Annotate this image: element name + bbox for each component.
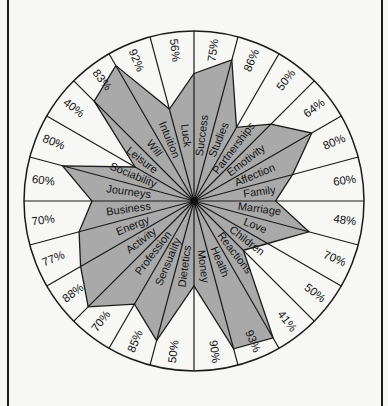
value-label-love: 70% <box>322 248 348 268</box>
value-label-studies: 86% <box>241 47 261 73</box>
value-label-success: 75% <box>205 38 220 62</box>
value-label-money: 90% <box>207 339 222 363</box>
value-label-partnerships: 50% <box>274 67 298 93</box>
value-label-sensuality: 85% <box>125 328 145 354</box>
value-label-marriage: 48% <box>333 212 357 227</box>
value-label-luck: 56% <box>168 38 183 62</box>
value-label-journeys: 60% <box>31 173 55 188</box>
value-label-leisure: 40% <box>61 96 87 120</box>
value-label-children: 50% <box>302 281 328 305</box>
value-label-business: 70% <box>31 212 55 227</box>
value-label-energy: 77% <box>40 248 66 268</box>
value-label-sociability: 80% <box>41 132 67 152</box>
center-hub <box>190 197 198 205</box>
value-label-emotivity: 64% <box>301 96 327 120</box>
value-label-reactions: 41% <box>275 308 299 334</box>
value-label-intuition: 92% <box>127 47 147 73</box>
value-label-family: 60% <box>332 173 356 188</box>
value-label-affection: 80% <box>321 132 347 152</box>
value-label-dietetics: 50% <box>166 339 181 363</box>
value-label-profession: 70% <box>89 308 113 334</box>
radar-chart: Success75%Studies86%Partnerships50%Emoti… <box>0 0 388 406</box>
value-label-activity: 88% <box>60 281 86 305</box>
